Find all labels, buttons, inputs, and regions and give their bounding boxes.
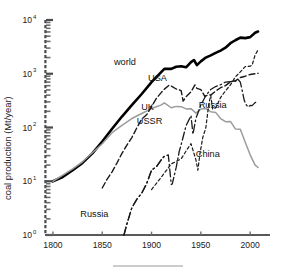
y-tick-mantissa: 10: [22, 123, 32, 133]
series-line-russia: [238, 80, 258, 107]
x-axis-tick-label: 1950: [191, 240, 210, 250]
x-axis-tick-labels: 18001850190019502000: [43, 240, 260, 250]
y-tick-exponent: 1: [33, 175, 37, 181]
series-label-world-0: world: [113, 57, 136, 67]
y-tick-mantissa: 10: [22, 15, 32, 25]
x-axis-tick-label: 1900: [142, 240, 161, 250]
y-tick-exponent: 2: [33, 121, 37, 127]
y-tick-exponent: 3: [33, 67, 37, 73]
coal-production-figure: 100101102103104 18001850190019502000 wor…: [0, 0, 287, 279]
x-axis-tick-label: 1800: [43, 240, 62, 250]
x-axis-group: [45, 232, 270, 235]
y-axis-tick-label: 101: [22, 175, 37, 187]
y-tick-mantissa: 10: [22, 176, 32, 186]
coal-production-chart: 100101102103104 18001850190019502000 wor…: [0, 0, 287, 279]
series-label-uk-2: UK: [141, 102, 155, 112]
y-axis-minor-ticks: [46, 20, 53, 235]
series-label-usa-1: USA: [148, 73, 168, 83]
y-axis-title: coal production (Mt/year): [2, 96, 13, 200]
y-tick-mantissa: 10: [22, 230, 32, 240]
series-line-russia-early: [124, 156, 164, 235]
series-label-russia-6: Russia: [80, 209, 109, 219]
y-axis-tick-label: 103: [22, 67, 37, 79]
y-tick-exponent: 4: [33, 14, 37, 20]
series-line-china: [152, 50, 259, 190]
series-annotations: worldUSAUKUSSRChinaRussiaRussia: [80, 57, 227, 219]
y-axis-group: [45, 20, 53, 235]
y-tick-exponent: 0: [33, 229, 37, 235]
series-label-russia-5: Russia: [199, 100, 228, 110]
y-axis-tick-labels: 100101102103104: [22, 14, 37, 241]
y-axis-tick-label: 102: [22, 121, 37, 133]
x-axis-tick-label: 1850: [93, 240, 112, 250]
series-curves: [53, 32, 258, 235]
y-axis-tick-label: 100: [22, 229, 37, 241]
series-line-usa: [102, 73, 258, 188]
series-label-ussr-3: USSR: [137, 116, 163, 126]
y-tick-mantissa: 10: [22, 69, 32, 79]
series-label-china-4: China: [196, 149, 221, 159]
x-axis-tick-label: 2000: [241, 240, 260, 250]
y-axis-tick-label: 104: [22, 14, 37, 26]
